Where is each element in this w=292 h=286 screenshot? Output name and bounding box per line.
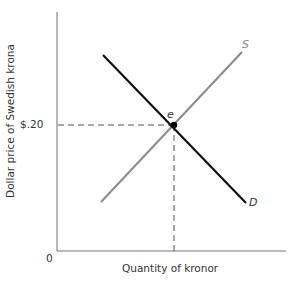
demand-label: D	[249, 196, 257, 209]
y-axis-label: Dollar price of Swedish krona	[4, 6, 16, 236]
x-axis-label: Quantity of kronor	[122, 262, 218, 274]
supply-label: S	[242, 38, 249, 51]
equilibrium-label: e	[167, 108, 174, 121]
origin-label: 0	[46, 252, 53, 264]
price-tick-label: $.20	[20, 118, 43, 130]
equilibrium-point	[171, 122, 177, 128]
